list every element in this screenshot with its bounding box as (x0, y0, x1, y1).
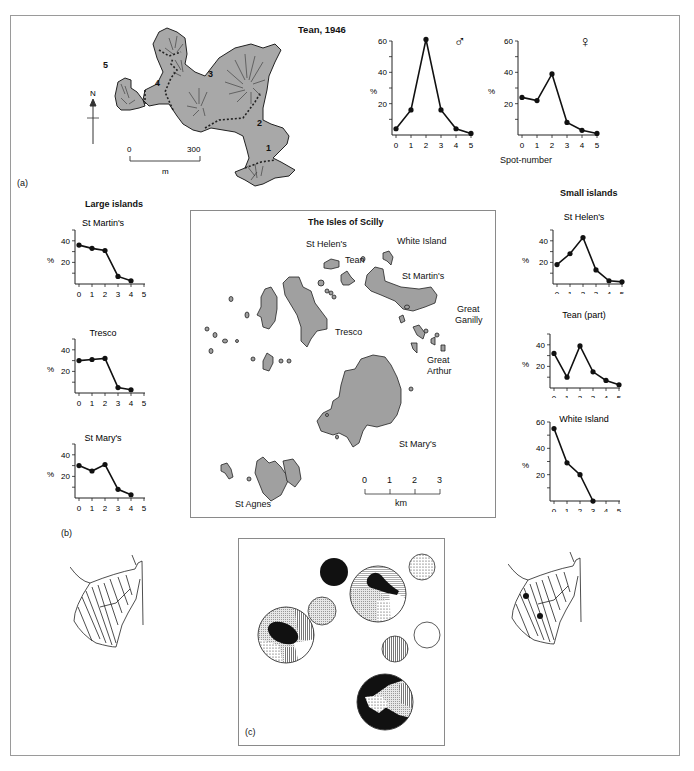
svg-text:1: 1 (90, 290, 95, 299)
svg-text:0: 0 (394, 141, 399, 150)
chart-st-helens: 2040012345%St Helen's (520, 204, 650, 294)
svg-text:2: 2 (581, 290, 586, 294)
chart-white-island: 204060012345%White Island (520, 412, 650, 512)
chart-tean-part: 2040012345%Tean (part) (520, 308, 650, 398)
label-great-arthur-1: Great (427, 355, 450, 365)
svg-text:Tresco: Tresco (89, 328, 116, 338)
svg-text:%: % (522, 256, 529, 265)
svg-text:♀: ♀ (579, 35, 591, 50)
zone-5-label: 5 (103, 60, 108, 70)
svg-text:5: 5 (142, 290, 147, 299)
pattern-circle-grid (308, 597, 336, 625)
svg-text:60: 60 (378, 37, 387, 46)
svg-text:%: % (370, 87, 377, 96)
svg-text:40: 40 (61, 346, 70, 355)
butterfly-wing-spotted (508, 552, 608, 652)
north-arrow-icon (87, 99, 99, 144)
svg-text:St Martin's: St Martin's (82, 218, 125, 228)
svg-text:2: 2 (424, 141, 429, 150)
svg-text:3: 3 (565, 141, 570, 150)
svg-text:4: 4 (607, 290, 612, 294)
svg-text:0: 0 (520, 141, 525, 150)
svg-text:5: 5 (469, 141, 474, 150)
svg-text:5: 5 (142, 504, 147, 513)
label-st-helens: St Helen's (306, 239, 347, 249)
spot-number-axis-label: Spot-number (500, 155, 552, 165)
svg-text:St Helen's: St Helen's (564, 212, 605, 222)
svg-text:300: 300 (187, 145, 201, 154)
wing-spot-icon (537, 613, 543, 619)
svg-text:4: 4 (604, 394, 609, 398)
label-tean: Tean (345, 255, 365, 265)
svg-text:2: 2 (103, 399, 108, 408)
svg-text:%: % (47, 365, 54, 374)
label-tresco: Tresco (335, 327, 362, 337)
panel-label-a: (a) (17, 178, 28, 188)
svg-text:1: 1 (90, 504, 95, 513)
svg-text:40: 40 (539, 237, 548, 246)
scilly-map: The Isles of Scilly St Helen's White Isl… (190, 210, 496, 518)
scilly-map-title: The Isles of Scilly (308, 217, 384, 227)
wing-spot-icon (523, 593, 529, 599)
svg-text:20: 20 (536, 362, 545, 371)
zone-3-label: 3 (208, 69, 213, 79)
chart-st-marys: 2040012345%St Mary's (40, 431, 170, 521)
svg-text:4: 4 (604, 507, 609, 512)
svg-text:m: m (162, 167, 169, 176)
svg-text:2: 2 (578, 507, 583, 512)
svg-text:60: 60 (504, 37, 513, 46)
svg-text:20: 20 (504, 100, 513, 109)
svg-text:0: 0 (77, 399, 82, 408)
chart-tean-male: 204060012345%♂ (370, 35, 474, 150)
svg-text:Tean (part): Tean (part) (562, 310, 606, 320)
svg-text:1: 1 (565, 507, 570, 512)
label-st-marys: St Mary's (399, 439, 436, 449)
svg-text:4: 4 (580, 141, 585, 150)
svg-text:3: 3 (439, 141, 444, 150)
svg-text:20: 20 (378, 100, 387, 109)
tean-spot-charts: 204060012345%♂ 204060012345%♀ (355, 35, 605, 160)
chart-st-martins: 2040012345%St Martin's (40, 215, 170, 305)
svg-text:2: 2 (103, 504, 108, 513)
svg-text:4: 4 (129, 290, 134, 299)
svg-text:40: 40 (61, 451, 70, 460)
svg-text:40: 40 (61, 237, 70, 246)
svg-text:1: 1 (568, 290, 573, 294)
svg-text:4: 4 (454, 141, 459, 150)
svg-text:3: 3 (116, 290, 121, 299)
north-label: N (90, 89, 96, 98)
label-st-agnes: St Agnes (235, 499, 271, 509)
label-great-ganilly-1: Great (457, 304, 480, 314)
zone-2-label: 2 (257, 118, 262, 128)
svg-text:St Mary's: St Mary's (84, 433, 122, 443)
svg-text:20: 20 (61, 258, 70, 267)
pattern-circle-large-b (350, 566, 410, 626)
pattern-circle-black (320, 558, 348, 586)
svg-text:4: 4 (129, 504, 134, 513)
svg-text:0: 0 (552, 394, 557, 398)
svg-text:20: 20 (61, 367, 70, 376)
svg-text:♂: ♂ (454, 35, 466, 50)
svg-text:4: 4 (129, 399, 134, 408)
butterfly-wing-unspotted (70, 555, 170, 655)
small-islands-heading: Small islands (560, 188, 618, 198)
svg-text:%: % (488, 87, 495, 96)
pattern-circle-lines (382, 636, 408, 662)
svg-text:3: 3 (116, 504, 121, 513)
svg-text:40: 40 (504, 68, 513, 77)
svg-text:20: 20 (539, 258, 548, 267)
svg-text:40: 40 (536, 444, 545, 453)
tean-scale-bar (130, 156, 200, 161)
svg-text:5: 5 (620, 290, 625, 294)
svg-text:1: 1 (535, 141, 540, 150)
svg-text:0: 0 (77, 290, 82, 299)
svg-text:0: 0 (555, 290, 560, 294)
tean-island-shape (115, 28, 295, 186)
svg-text:5: 5 (617, 394, 622, 398)
svg-text:2: 2 (578, 394, 583, 398)
svg-text:5: 5 (142, 399, 147, 408)
label-white-island: White Island (397, 236, 447, 246)
panel-label-b: (b) (61, 528, 72, 538)
svg-text:5: 5 (617, 507, 622, 512)
svg-text:3: 3 (591, 394, 596, 398)
